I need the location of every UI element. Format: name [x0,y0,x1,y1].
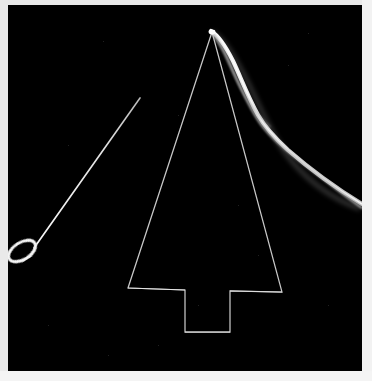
apex-highlight [209,30,216,35]
photo-black-background: Needle and thread with wire tree outline… [8,5,362,371]
photo-border-left [0,0,8,381]
photograph-frame: Needle and thread with wire tree outline… [0,0,372,381]
photo-border-bottom [0,371,372,381]
photo-scene [8,5,362,371]
photo-border-right [362,0,372,381]
